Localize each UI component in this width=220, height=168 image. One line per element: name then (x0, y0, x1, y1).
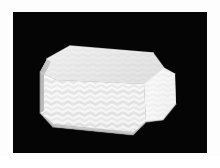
render-canvas: Front Top Right Left bevel Bottom bevel (13, 12, 207, 153)
cuboid-svg: Front Top Right Left bevel Bottom bevel (13, 12, 207, 153)
figure-frame: Front Top Right Left bevel Bottom bevel (0, 0, 220, 168)
rounded-cuboid: Front Top Right Left bevel Bottom bevel (13, 12, 207, 153)
figure-bottom-margin (0, 156, 220, 168)
